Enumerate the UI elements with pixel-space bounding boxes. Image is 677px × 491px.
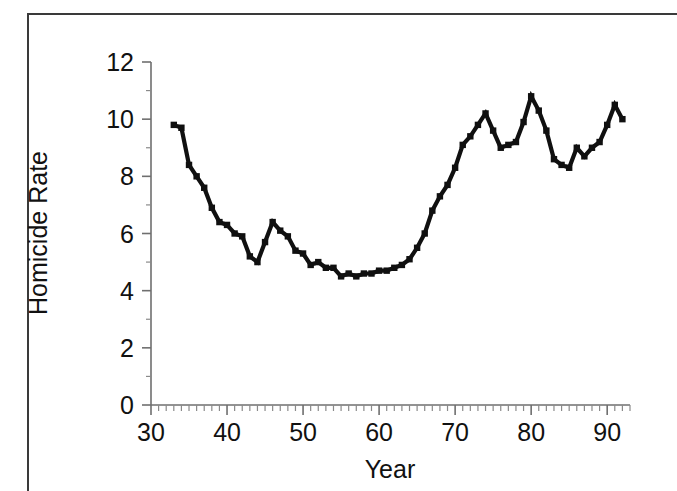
chart-canvas: 024681012 30405060708090 Year Homicide R… (0, 0, 677, 491)
y-tick-label: 12 (106, 48, 134, 76)
x-tick-label: 50 (289, 418, 317, 446)
y-tick-label: 6 (120, 220, 134, 248)
x-axis-title: Year (365, 455, 416, 483)
figure-page: 024681012 30405060708090 Year Homicide R… (0, 0, 677, 491)
y-tick-label: 4 (120, 277, 134, 305)
x-tick-label: 60 (365, 418, 393, 446)
y-axis-tick-labels: 024681012 (106, 48, 134, 419)
y-tick-label: 10 (106, 105, 134, 133)
y-tick-label: 0 (120, 391, 134, 419)
x-tick-label: 80 (517, 418, 545, 446)
y-axis-title: Homicide Rate (24, 151, 52, 315)
x-tick-label: 40 (213, 418, 241, 446)
series-markers (171, 93, 626, 279)
homicide-rate-series-line (174, 96, 623, 276)
x-tick-label: 90 (593, 418, 621, 446)
x-tick-label: 30 (137, 418, 165, 446)
x-tick-label: 70 (441, 418, 469, 446)
y-tick-label: 8 (120, 162, 134, 190)
x-axis-tick-labels: 30405060708090 (137, 418, 621, 446)
homicide-rate-line-chart: 024681012 30405060708090 Year Homicide R… (0, 0, 677, 491)
y-tick-label: 2 (120, 334, 134, 362)
y-axis-major-ticks (142, 62, 151, 405)
x-axis-minor-ticks (159, 405, 630, 411)
